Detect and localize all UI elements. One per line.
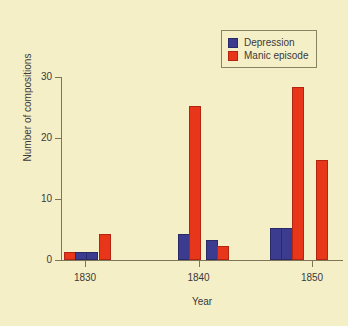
bar-manic-1842 [217,246,229,260]
x-tick-mark [312,261,313,267]
x-tick-mark [85,261,86,267]
bar-manic-1831 [99,234,111,260]
x-tick-label: 1840 [169,272,229,283]
legend-swatch-icon [228,51,238,61]
bar-depression-1830 [86,252,98,260]
legend-item-label: Depression [244,37,295,48]
legend-item-manic: Manic episode [228,49,308,62]
x-tick-label: 1830 [55,272,115,283]
legend-item-label: Manic episode [244,50,308,61]
bar-chart: 0102030 183018401850 Year Number of comp… [0,0,348,326]
y-axis-title: Number of compositions [22,18,33,198]
chart-legend: DepressionManic episode [221,30,317,68]
x-tick-mark [199,261,200,267]
plot-area: 0102030 183018401850 Year Number of comp… [0,0,348,326]
bar-manic-1840 [189,106,201,261]
y-axis-line [61,77,62,261]
legend-item-depression: Depression [228,36,308,49]
x-axis-title: Year [61,296,343,307]
x-tick-label: 1850 [282,272,342,283]
bar-manic-1850 [292,87,304,260]
x-axis-line [61,260,343,261]
y-tick-label-wrap: 0 [0,255,61,265]
legend-swatch-icon [228,38,238,48]
y-tick-label: 0 [16,255,61,265]
bar-manic-1852 [316,160,328,260]
